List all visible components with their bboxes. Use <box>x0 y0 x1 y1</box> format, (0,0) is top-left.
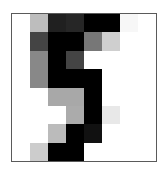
pixel-cell <box>84 124 102 142</box>
pixel-cell <box>48 14 66 32</box>
pixel-grid-frame <box>11 13 157 162</box>
pixel-cell <box>12 88 30 106</box>
pixel-cell <box>12 32 30 50</box>
pixel-cell <box>12 69 30 87</box>
pixel-cell <box>120 32 138 50</box>
pixel-cell <box>138 124 156 142</box>
pixel-cell <box>30 143 48 161</box>
pixel-cell <box>84 106 102 124</box>
pixel-cell <box>30 32 48 50</box>
pixel-cell <box>120 143 138 161</box>
pixel-cell <box>12 51 30 69</box>
pixel-cell <box>138 106 156 124</box>
pixel-cell <box>84 69 102 87</box>
pixel-cell <box>84 14 102 32</box>
pixel-cell <box>138 143 156 161</box>
pixel-cell <box>48 51 66 69</box>
pixel-cell <box>84 88 102 106</box>
pixel-cell <box>84 51 102 69</box>
pixel-cell <box>120 124 138 142</box>
pixel-cell <box>66 124 84 142</box>
pixel-cell <box>48 106 66 124</box>
pixel-cell <box>12 143 30 161</box>
pixel-cell <box>12 124 30 142</box>
pixel-cell <box>102 143 120 161</box>
pixel-cell <box>66 106 84 124</box>
pixel-cell <box>48 88 66 106</box>
pixel-cell <box>102 69 120 87</box>
pixel-cell <box>12 106 30 124</box>
pixel-cell <box>120 51 138 69</box>
pixel-cell <box>138 51 156 69</box>
pixel-cell <box>48 143 66 161</box>
pixel-cell <box>138 14 156 32</box>
pixel-cell <box>102 14 120 32</box>
pixel-cell <box>84 143 102 161</box>
pixel-cell <box>66 143 84 161</box>
pixel-cell <box>66 88 84 106</box>
pixel-cell <box>30 51 48 69</box>
pixel-cell <box>48 124 66 142</box>
pixel-cell <box>66 51 84 69</box>
pixel-cell <box>30 14 48 32</box>
pixel-cell <box>120 88 138 106</box>
pixel-cell <box>48 69 66 87</box>
pixel-cell <box>120 69 138 87</box>
pixel-cell <box>102 51 120 69</box>
pixel-cell <box>102 106 120 124</box>
pixel-cell <box>30 69 48 87</box>
pixel-cell <box>30 106 48 124</box>
pixel-cell <box>102 124 120 142</box>
pixel-cell <box>66 32 84 50</box>
pixel-cell <box>66 14 84 32</box>
pixel-cell <box>102 88 120 106</box>
pixel-cell <box>120 14 138 32</box>
pixel-cell <box>138 32 156 50</box>
pixel-cell <box>66 69 84 87</box>
pixel-cell <box>84 32 102 50</box>
pixel-grid <box>12 14 156 161</box>
pixel-cell <box>138 88 156 106</box>
pixel-cell <box>30 124 48 142</box>
pixel-cell <box>120 106 138 124</box>
pixel-cell <box>48 32 66 50</box>
pixel-cell <box>138 69 156 87</box>
pixel-cell <box>12 14 30 32</box>
pixel-cell <box>30 88 48 106</box>
pixel-cell <box>102 32 120 50</box>
